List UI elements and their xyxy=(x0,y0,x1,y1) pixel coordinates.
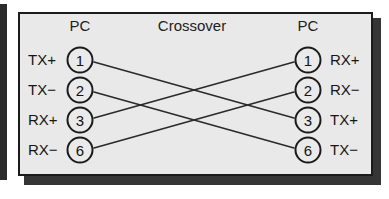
left-pin-number-3: 3 xyxy=(76,113,84,128)
right-pin-signal-1: RX+ xyxy=(330,52,360,68)
right-device-label: PC xyxy=(298,17,319,34)
diagram-title: Crossover xyxy=(158,17,226,34)
right-pin-signal-6: TX− xyxy=(330,142,358,158)
left-pin-circle-1[interactable]: 1 xyxy=(67,47,94,74)
left-pin-number-2: 2 xyxy=(76,83,84,98)
scan-edge-artifact xyxy=(0,4,7,180)
left-pin-circle-3[interactable]: 3 xyxy=(67,107,94,134)
right-pin-circle-2[interactable]: 2 xyxy=(295,77,322,104)
left-pin-number-1: 1 xyxy=(76,53,84,68)
left-pin-circle-6[interactable]: 6 xyxy=(67,137,94,164)
right-pin-number-3: 3 xyxy=(304,113,312,128)
left-device-label: PC xyxy=(70,17,91,34)
right-pin-number-6: 6 xyxy=(304,143,312,158)
left-pin-signal-2: TX− xyxy=(28,82,56,98)
right-pin-circle-3[interactable]: 3 xyxy=(295,107,322,134)
right-pin-circle-6[interactable]: 6 xyxy=(295,137,322,164)
diagram-canvas: PC Crossover PC TX+ TX− RX+ RX− 1 2 3 6 … xyxy=(0,0,389,199)
right-pin-number-1: 1 xyxy=(304,53,312,68)
right-pin-signal-3: TX+ xyxy=(330,112,358,128)
left-pin-number-6: 6 xyxy=(76,143,84,158)
left-pin-signal-6: RX− xyxy=(28,142,58,158)
left-pin-signal-3: RX+ xyxy=(28,112,58,128)
right-pin-circle-1[interactable]: 1 xyxy=(295,47,322,74)
right-pin-signal-2: RX− xyxy=(330,82,360,98)
left-pin-circle-2[interactable]: 2 xyxy=(67,77,94,104)
left-pin-signal-1: TX+ xyxy=(28,52,56,68)
right-pin-number-2: 2 xyxy=(304,83,312,98)
